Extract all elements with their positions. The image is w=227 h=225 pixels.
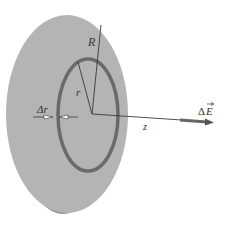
label-field-symbol: E — [205, 105, 213, 117]
label-z-axis: z — [142, 121, 147, 132]
diagram-canvas: R r Δr z Δ E — [0, 0, 227, 225]
label-field-delta: Δ — [198, 105, 205, 117]
label-ring-radius: r — [76, 86, 81, 98]
label-ring-width: Δr — [36, 103, 48, 115]
field-vector-shaft — [180, 120, 207, 122]
field-vector-arrowhead-icon — [205, 119, 214, 126]
label-disk-radius: R — [87, 35, 96, 49]
charged-disk — [6, 15, 128, 213]
disk-field-diagram: R r Δr z Δ E — [0, 0, 227, 225]
